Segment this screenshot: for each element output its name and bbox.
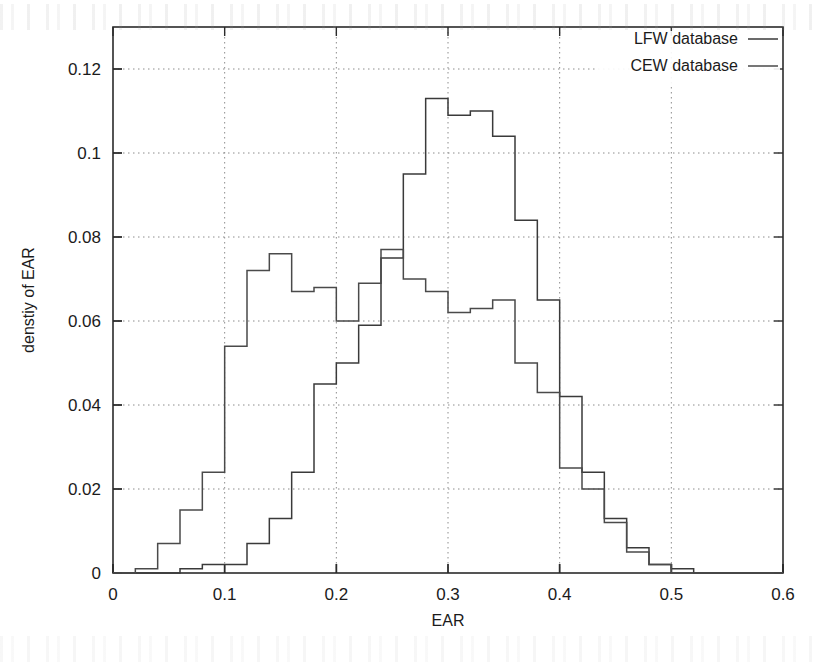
plot-svg: 00.10.20.30.40.50.6 00.020.040.060.080.1… <box>0 0 824 664</box>
x-tick-label-3: 0.3 <box>436 585 460 604</box>
x-tick-label-0: 0 <box>108 585 117 604</box>
x-tick-label-6: 0.6 <box>771 585 795 604</box>
y-tick-label-3: 0.06 <box>68 312 101 331</box>
y-tick-label-0: 0 <box>92 564 101 583</box>
y-tick-label-6: 0.12 <box>68 60 101 79</box>
x-tick-label-5: 0.5 <box>660 585 684 604</box>
legend-entry-lfw-label: LFW database <box>634 30 738 47</box>
data-series-layer <box>113 98 783 573</box>
series-step-lfw <box>113 98 783 573</box>
x-tick-label-4: 0.4 <box>548 585 572 604</box>
x-tick-label-1: 0.1 <box>213 585 237 604</box>
x-tick-labels: 00.10.20.30.40.50.6 <box>108 585 795 604</box>
legend-entry-cew-label: CEW database <box>630 57 738 74</box>
series-step-cew <box>113 250 783 573</box>
y-tick-label-1: 0.02 <box>68 480 101 499</box>
y-tick-label-2: 0.04 <box>68 396 101 415</box>
x-axis-title: EAR <box>432 612 465 629</box>
y-tick-labels: 00.020.040.060.080.10.12 <box>68 60 101 583</box>
y-tick-label-4: 0.08 <box>68 228 101 247</box>
y-tick-label-5: 0.1 <box>77 144 101 163</box>
histogram-chart: 00.10.20.30.40.50.6 00.020.040.060.080.1… <box>0 0 824 664</box>
legend: LFW database CEW database <box>595 30 780 87</box>
y-axis-title: denstiy of EAR <box>20 247 37 353</box>
x-tick-label-2: 0.2 <box>325 585 349 604</box>
